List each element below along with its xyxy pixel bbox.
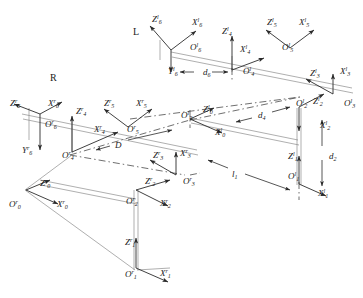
d6: d6 — [203, 68, 211, 78]
label-Z3-right: Zr3 — [153, 150, 163, 161]
label-Z0-right: Zr0 — [40, 178, 50, 189]
label-O3-right: Or3 — [183, 176, 195, 187]
label-O0-right: Or0 — [9, 199, 21, 210]
label-X5-right: Xr5 — [136, 98, 147, 109]
d2: d2 — [329, 152, 337, 162]
label-O6-left: Ol6 — [190, 42, 201, 53]
label-O0-left: Ol0 — [181, 110, 192, 121]
l1: l1 — [232, 170, 238, 180]
label-Z1-left: Zl1 — [288, 151, 298, 162]
label-X3-left: Xl3 — [340, 66, 350, 77]
label-X4-left: Xl4 — [240, 44, 250, 55]
left-arm-marker: L — [133, 26, 139, 37]
label-O2-right: Or2 — [126, 196, 138, 207]
label-Z2-left: Zl2 — [313, 96, 323, 107]
label-O2-left: Ol2 — [296, 98, 307, 109]
label-Z5-right: Zr5 — [104, 98, 114, 109]
D: D — [115, 141, 122, 150]
label-Z2-right: Zr2 — [145, 176, 155, 187]
label-O4-left: Ol4 — [243, 66, 254, 77]
label-X1-left: Xl1 — [318, 188, 328, 199]
label-X5-left: Xl5 — [299, 17, 309, 28]
label-O4-right: Or4 — [62, 150, 74, 161]
label-O3-left: Ol3 — [344, 98, 355, 109]
label-X4-right: Xr4 — [94, 124, 105, 135]
label-Z3-left: Zl3 — [310, 68, 320, 79]
right-arm-structure-lines — [22, 108, 198, 270]
label-X6-right: Xr6 — [48, 98, 59, 109]
d4: d4 — [258, 111, 266, 121]
label-Z4-left: Zl4 — [222, 26, 232, 37]
label-X3-right: Xr3 — [180, 148, 191, 159]
label-O5-left: Ol5 — [282, 42, 293, 53]
label-Z6-left: Zl6 — [152, 14, 162, 25]
label-X0-right: Xr0 — [57, 199, 68, 210]
label-Z4-right: Zr4 — [76, 106, 86, 117]
label-X6-left: Xl6 — [192, 17, 202, 28]
label-Z5-left: Zl5 — [267, 17, 277, 28]
connecting-edges — [25, 155, 170, 270]
label-Y6-right: Yr6 — [22, 145, 32, 156]
label-X2-left: Xl2 — [320, 120, 330, 131]
label-Z6-right: Zr6 — [10, 98, 20, 109]
right-arm-marker: R — [50, 72, 57, 83]
label-O6-right: Or6 — [45, 119, 57, 130]
label-X2-right: Xr2 — [160, 198, 171, 209]
label-O1-left: Ol1 — [288, 171, 299, 182]
label-X1-right: Xr1 — [160, 268, 171, 279]
label-Y6-left: Yl6 — [168, 66, 178, 77]
label-O5-right: Or5 — [127, 124, 139, 135]
kinematic-diagram-canvas: LRZl6Xl6Ol6Yl6Zl4Xl4Ol4Zl5Xl5Ol5Zl3Xl3Ol… — [0, 0, 363, 298]
label-X0-left: Xl0 — [215, 127, 225, 138]
label-Z1-right: Zr1 — [125, 237, 135, 248]
label-O1-right: Or1 — [125, 269, 137, 280]
label-Z0-left: Zl0 — [203, 104, 213, 115]
